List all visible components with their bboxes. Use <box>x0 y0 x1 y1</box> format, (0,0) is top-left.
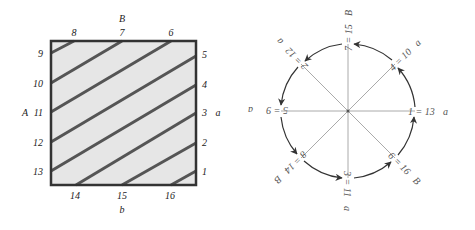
point-top: 7 <box>120 27 126 38</box>
node-8: 8 = 14 B <box>272 149 309 186</box>
svg-text:7 = 15: 7 = 15 <box>343 24 354 51</box>
point-left: 10 <box>33 78 43 89</box>
svg-text:a: a <box>342 206 353 211</box>
svg-text:B: B <box>343 10 354 16</box>
node-5: 5 = 9 a <box>248 105 288 116</box>
diagram-canvas: B b A a 8 7 6 14 15 16 9 10 11 12 13 5 4… <box>0 0 475 230</box>
square-fill <box>51 41 196 185</box>
point-left: 9 <box>38 48 43 59</box>
point-bottom: 16 <box>165 190 175 201</box>
svg-text:a: a <box>443 106 448 117</box>
node-6: 6 = 16 B <box>386 150 423 187</box>
node-3: 3 = 11 a <box>342 170 353 211</box>
circle-diagram: 1 = 13 a 4 = 10 a 7 = 15 B 2 = 12 a 5 = … <box>248 10 448 211</box>
svg-text:B: B <box>272 174 284 186</box>
svg-text:1 = 13: 1 = 13 <box>408 106 435 117</box>
svg-text:a: a <box>274 36 285 47</box>
svg-text:B: B <box>411 175 423 187</box>
edge-label-bottom: b <box>120 204 125 215</box>
arrow-8-3 <box>304 161 342 178</box>
svg-text:3 = 11: 3 = 11 <box>342 170 353 197</box>
arrow-6-1 <box>398 117 414 155</box>
center-dot <box>347 110 350 113</box>
point-top: 6 <box>169 27 174 38</box>
point-right: 1 <box>202 166 207 177</box>
point-bottom: 15 <box>117 190 127 201</box>
svg-text:a: a <box>412 37 423 48</box>
arrow-2-5 <box>281 67 298 105</box>
square-diagram: B b A a 8 7 6 14 15 16 9 10 11 12 13 5 4… <box>21 13 221 215</box>
arrow-3-6 <box>354 162 391 178</box>
point-right: 4 <box>202 79 207 90</box>
svg-text:a: a <box>248 105 253 116</box>
svg-text:5 = 9: 5 = 9 <box>266 105 288 116</box>
edge-label-left: A <box>21 107 29 118</box>
edge-label-top: B <box>119 13 125 24</box>
arrow-5-8 <box>281 117 297 154</box>
point-right: 5 <box>202 49 207 60</box>
point-left: 13 <box>33 166 43 177</box>
node-7: 7 = 15 B <box>343 10 354 51</box>
point-left: 12 <box>33 137 43 148</box>
arrow-4-7 <box>354 44 392 60</box>
point-right: 2 <box>202 137 207 148</box>
point-right: 3 <box>201 107 207 118</box>
arrow-7-2 <box>305 44 342 61</box>
point-bottom: 14 <box>70 190 80 201</box>
node-4: 4 = 10 a <box>387 37 423 73</box>
node-2: 2 = 12 a <box>274 36 310 72</box>
point-top: 8 <box>72 27 77 38</box>
node-1: 1 = 13 a <box>408 106 448 117</box>
arrow-1-4 <box>398 68 415 107</box>
point-left: 11 <box>34 107 43 118</box>
edge-label-right: a <box>216 107 221 118</box>
